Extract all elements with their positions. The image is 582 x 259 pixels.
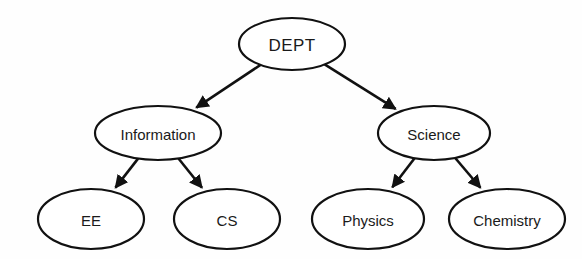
- node-label-chemistry: Chemistry: [473, 212, 541, 229]
- node-physics[interactable]: Physics: [312, 189, 424, 249]
- node-label-science: Science: [407, 126, 460, 143]
- edge-science-physics: [392, 158, 414, 187]
- node-label-ee: EE: [81, 212, 101, 229]
- node-information[interactable]: Information: [95, 106, 221, 160]
- node-science[interactable]: Science: [378, 106, 490, 160]
- node-cs[interactable]: CS: [174, 189, 280, 249]
- node-label-cs: CS: [217, 212, 238, 229]
- edge-information-cs: [178, 159, 201, 188]
- nodes-layer: DEPTInformationScienceEECSPhysicsChemist…: [38, 18, 565, 249]
- edge-dept-information: [196, 65, 260, 108]
- node-label-dept: DEPT: [269, 36, 316, 55]
- edge-dept-science: [325, 64, 396, 108]
- node-label-physics: Physics: [342, 212, 394, 229]
- node-chemistry[interactable]: Chemistry: [449, 189, 565, 249]
- node-label-information: Information: [120, 126, 195, 143]
- diagram-canvas: DEPTInformationScienceEECSPhysicsChemist…: [0, 0, 582, 259]
- node-dept[interactable]: DEPT: [239, 18, 345, 70]
- tree-diagram: DEPTInformationScienceEECSPhysicsChemist…: [0, 0, 582, 259]
- edge-science-chemistry: [455, 158, 480, 188]
- node-ee[interactable]: EE: [38, 189, 144, 249]
- edge-information-ee: [115, 159, 138, 188]
